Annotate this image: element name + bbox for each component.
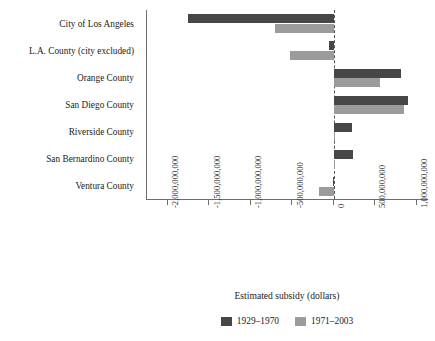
x-tick-label: 0 <box>336 204 346 208</box>
legend-item: 1971–2003 <box>295 316 353 326</box>
legend-swatch-icon <box>295 317 306 326</box>
x-tick-mark <box>416 200 417 205</box>
bar-0-3 <box>334 96 408 105</box>
bar-1-3 <box>334 105 405 114</box>
legend-item: 1929–1970 <box>221 316 279 326</box>
legend-label: 1971–2003 <box>311 316 353 326</box>
bar-1-6 <box>319 187 334 196</box>
x-tick-label: -1,500,000,000 <box>212 156 222 208</box>
bar-1-1 <box>290 51 334 60</box>
x-tick-mark <box>291 200 292 205</box>
category-label: Riverside County <box>0 127 134 137</box>
bar-0-2 <box>334 69 402 78</box>
category-label: Orange County <box>0 73 134 83</box>
bar-0-0 <box>188 14 334 23</box>
bar-1-0 <box>275 24 334 33</box>
x-axis-title: Estimated subsidy (dollars) <box>146 290 428 301</box>
bar-0-5 <box>334 150 353 159</box>
subsidy-bar-chart: City of Los AngelesL.A. County (city exc… <box>0 0 435 341</box>
x-tick-label: 1,000,000,000 <box>419 159 429 208</box>
x-tick-label: -1,000,000,000 <box>253 156 263 208</box>
bar-1-4 <box>334 132 336 141</box>
x-tick-label: 500,000,000 <box>377 165 387 208</box>
bar-1-5 <box>334 160 336 169</box>
category-label: City of Los Angeles <box>0 19 134 29</box>
bar-1-2 <box>334 78 380 87</box>
bar-0-1 <box>329 41 334 50</box>
category-axis-labels: City of Los AngelesL.A. County (city exc… <box>0 10 140 200</box>
category-label: San Diego County <box>0 100 134 110</box>
bar-0-6 <box>333 177 335 186</box>
x-tick-mark <box>208 200 209 205</box>
category-label: Ventura County <box>0 181 134 191</box>
category-label: L.A. County (city excluded) <box>0 46 134 56</box>
bar-0-4 <box>334 123 353 132</box>
legend-label: 1929–1970 <box>237 316 279 326</box>
x-tick-label: -500,000,000 <box>295 162 305 208</box>
x-tick-mark <box>167 200 168 205</box>
x-tick-mark <box>374 200 375 205</box>
legend-swatch-icon <box>221 317 232 326</box>
x-tick-mark <box>250 200 251 205</box>
x-tick-label: -2,000,000,000 <box>170 156 180 208</box>
chart-legend: 1929–19701971–2003 <box>146 316 428 326</box>
x-tick-mark <box>333 200 334 205</box>
category-label: San Bernardino County <box>0 154 134 164</box>
